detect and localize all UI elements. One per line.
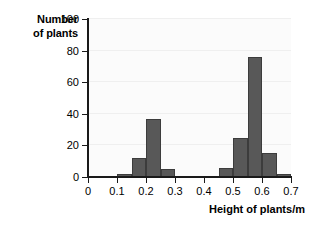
y-tick-mark (82, 145, 87, 146)
y-tick-mark (82, 19, 87, 20)
histogram-bar (146, 119, 161, 177)
histogram-bar (262, 153, 277, 177)
histogram-chart: Number of plants 020406080100 00.10.20.3… (0, 0, 312, 225)
gridline (88, 18, 291, 19)
histogram-bar (132, 158, 147, 177)
y-tick-mark (82, 82, 87, 83)
y-axis-line (87, 18, 89, 178)
gridline (88, 50, 291, 51)
y-tick-label: 80 (39, 46, 79, 57)
y-tick-label: 40 (39, 109, 79, 120)
x-tick-mark (204, 178, 205, 183)
y-tick-label: 0 (39, 172, 79, 183)
x-tick-mark (291, 178, 292, 183)
y-tick-label: 20 (39, 140, 79, 151)
y-tick-label: 60 (39, 77, 79, 88)
x-tick-label: 0.7 (271, 186, 311, 197)
x-tick-mark (88, 178, 89, 183)
histogram-bar (233, 138, 248, 178)
y-tick-mark (82, 114, 87, 115)
x-tick-mark (146, 178, 147, 183)
x-tick-mark (233, 178, 234, 183)
plot-area (88, 19, 291, 177)
x-tick-mark (117, 178, 118, 183)
y-tick-mark (82, 177, 87, 178)
y-tick-mark (82, 51, 87, 52)
histogram-bar (248, 57, 263, 177)
y-tick-label: 100 (39, 14, 79, 25)
x-tick-mark (262, 178, 263, 183)
x-tick-mark (175, 178, 176, 183)
x-axis-title: Height of plants/m (0, 203, 305, 216)
y-axis-title-line-2: of plants (0, 26, 78, 40)
